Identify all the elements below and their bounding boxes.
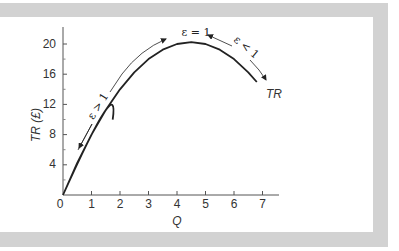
y-tick-label: 16 xyxy=(43,67,57,81)
x-tick-label: 1 xyxy=(88,197,95,211)
x-tick-label: 7 xyxy=(259,197,266,211)
x-tick-label: 0 xyxy=(57,197,64,211)
y-axis xyxy=(63,27,67,195)
x-tick-label: 5 xyxy=(202,197,209,211)
y-tick-label: 8 xyxy=(49,127,56,141)
y-tick-label: 4 xyxy=(49,157,56,171)
x-tick-label: 2 xyxy=(117,197,124,211)
x-tick-label: 3 xyxy=(145,197,152,211)
x-tick-label: 4 xyxy=(174,197,181,211)
y-tick-labels: 20 16 12 8 4 xyxy=(43,37,57,171)
elastic-annotation: ε > 1 xyxy=(85,90,111,121)
unit-elastic-annotation: ε = 1 xyxy=(182,26,211,39)
x-tick-label: 6 xyxy=(231,197,238,211)
y-tick-label: 20 xyxy=(43,37,57,51)
inelastic-annotation: ε < 1 xyxy=(231,33,262,62)
y-tick-label: 12 xyxy=(43,97,57,111)
curve-label: TR xyxy=(266,87,282,101)
x-axis-label: Q xyxy=(172,214,181,228)
inelastic-arrow-up xyxy=(208,35,232,46)
y-axis-label: TR (£) xyxy=(29,108,43,142)
x-axis xyxy=(63,191,279,195)
total-revenue-chart: 20 16 12 8 4 0 1 2 3 4 5 6 7 Q TR (£) ε … xyxy=(0,0,399,251)
x-tick-labels: 0 1 2 3 4 5 6 7 xyxy=(57,197,267,211)
